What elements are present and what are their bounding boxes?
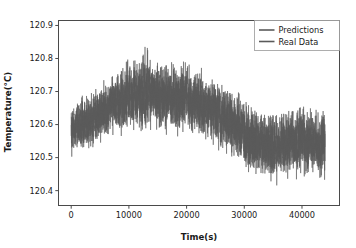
chart-figure: 120.4120.5120.6120.7120.8120.9 010000200… bbox=[0, 0, 356, 248]
y-tick-label: 120.5 bbox=[30, 152, 53, 162]
legend-label: Real Data bbox=[279, 37, 319, 47]
y-tick-label: 120.7 bbox=[30, 86, 53, 96]
x-tick-label: 20000 bbox=[174, 210, 200, 220]
chart-legend: PredictionsReal Data bbox=[255, 21, 340, 51]
y-axis-title: Temperature(°C) bbox=[3, 72, 13, 152]
y-tick-label: 120.8 bbox=[30, 53, 53, 63]
y-tick-label: 120.4 bbox=[30, 186, 53, 196]
x-axis-title: Time(s) bbox=[181, 232, 218, 242]
x-tick-label: 30000 bbox=[231, 210, 257, 220]
chart-canvas: 120.4120.5120.6120.7120.8120.9 010000200… bbox=[0, 0, 356, 248]
y-tick-label: 120.6 bbox=[30, 119, 53, 129]
x-tick-label: 0 bbox=[69, 210, 74, 220]
legend-label: Predictions bbox=[279, 25, 324, 35]
y-tick-label: 120.9 bbox=[30, 20, 53, 30]
x-tick-label: 40000 bbox=[289, 210, 315, 220]
x-tick-label: 10000 bbox=[116, 210, 142, 220]
